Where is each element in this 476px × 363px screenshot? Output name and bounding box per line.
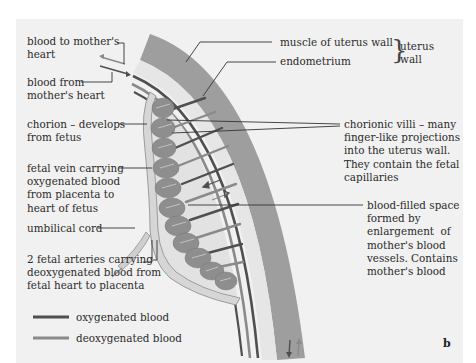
label-fetal-vein: fetal vein carrying oxygenated blood fro… [27,162,124,215]
label-chorion: chorion – develops from fetus [27,118,125,144]
label-chorionic-villi: chorionic villi – many finger-like proje… [344,118,460,184]
label-uterus-wall: uterus wall [400,40,434,66]
label-endometrium: endometrium [280,55,351,68]
legend-label-deoxygenated: deoxygenated blood [76,332,182,345]
panel-letter: b [443,337,451,350]
legend-label-oxygenated: oxygenated blood [76,311,169,324]
label-muscle: muscle of uterus wall [280,36,393,49]
label-fetal-arteries: 2 fetal arteries carrying deoxygenated b… [27,253,161,293]
label-blood-from-mother: blood from mother's heart [27,76,105,102]
label-umbilical-cord: umbilical cord [27,222,103,235]
label-blood-to-mother: blood to mother's heart [27,35,119,61]
label-blood-space: blood-filled space formed by enlargement… [367,199,459,278]
